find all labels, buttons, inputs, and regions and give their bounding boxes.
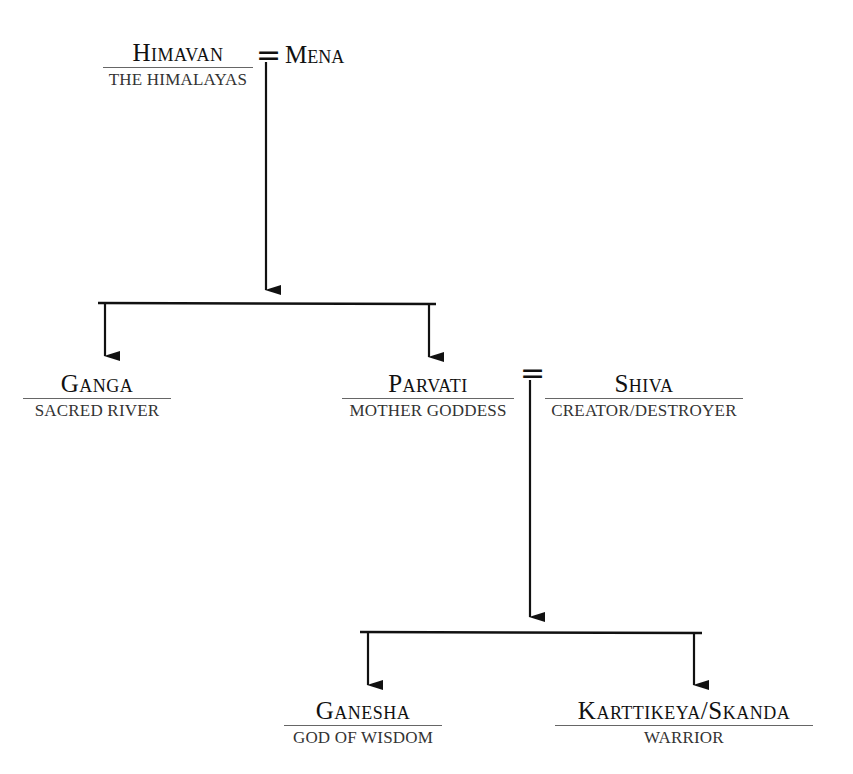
name-ganga: Ganga: [23, 371, 171, 397]
marriage-symbol-himavan-mena: =: [256, 40, 281, 70]
node-karttikeya: Karttikeya/Skanda WARRIOR: [555, 698, 813, 748]
role-himavan: THE HIMALAYAS: [103, 70, 253, 90]
rule: [284, 725, 442, 726]
role-ganga: SACRED RIVER: [23, 401, 171, 421]
node-ganga: Ganga SACRED RIVER: [23, 371, 171, 421]
node-shiva: Shiva CREATOR/DESTROYER: [545, 371, 743, 421]
rule: [23, 398, 171, 399]
name-shiva: Shiva: [545, 371, 743, 397]
node-himavan: Himavan THE HIMALAYAS: [103, 40, 253, 90]
role-ganesha: GOD OF WISDOM: [284, 728, 442, 748]
rule: [555, 725, 813, 726]
node-parvati: Parvati MOTHER GODDESS: [342, 371, 514, 421]
name-ganesha: Ganesha: [284, 698, 442, 724]
sibling-bar-gen2: [98, 303, 436, 304]
rule: [342, 398, 514, 399]
role-shiva: CREATOR/DESTROYER: [545, 401, 743, 421]
node-ganesha: Ganesha GOD OF WISDOM: [284, 698, 442, 748]
marriage-symbol-parvati-shiva: =: [520, 358, 545, 388]
name-karttikeya: Karttikeya/Skanda: [555, 698, 813, 724]
rule: [103, 67, 253, 68]
rule: [545, 398, 743, 399]
sibling-bar-gen3: [360, 632, 702, 633]
role-karttikeya: WARRIOR: [555, 728, 813, 748]
name-parvati: Parvati: [342, 371, 514, 397]
name-mena: Mena: [285, 42, 344, 68]
name-himavan: Himavan: [103, 40, 253, 66]
role-parvati: MOTHER GODDESS: [342, 401, 514, 421]
